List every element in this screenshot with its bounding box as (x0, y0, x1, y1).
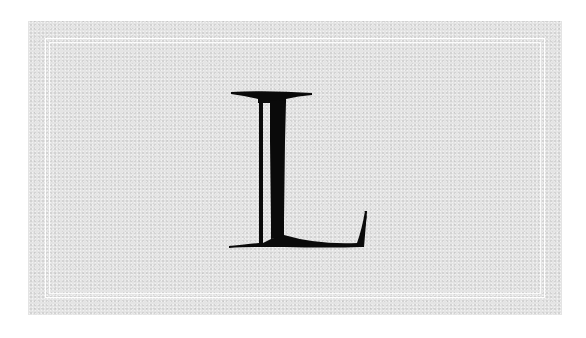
decorative-letter-l-glyph (28, 21, 562, 315)
stage: L (0, 0, 586, 338)
paper-card: L (28, 21, 562, 315)
